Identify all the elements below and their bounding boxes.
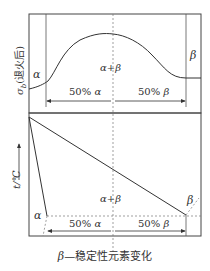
bottom-panel-frame [29, 113, 201, 236]
top-alpha-beta-label: α+β [100, 62, 121, 73]
strength-axis-label: σb(退火后) [11, 46, 28, 95]
alpha-transus-line [29, 117, 47, 216]
top-beta-label: β [190, 49, 196, 62]
alpha-extension-dashed [43, 216, 47, 236]
temperature-axis-label: t/℃ [11, 170, 22, 189]
phase-diagram-graphics [0, 0, 210, 271]
bottom-alpha-label: α [34, 209, 41, 222]
bottom-left-span-label: 50% α [69, 218, 101, 229]
top-left-span-label: 50% α [69, 86, 101, 97]
bottom-right-span-label: 50% β [138, 218, 169, 229]
top-right-span-label: 50% β [138, 86, 169, 97]
bottom-alpha-beta-label: α+β [100, 193, 121, 204]
top-alpha-label: α [33, 68, 40, 81]
figure-caption: β—稳定性元素变化 [0, 247, 210, 263]
bottom-beta-label: β [187, 194, 193, 207]
